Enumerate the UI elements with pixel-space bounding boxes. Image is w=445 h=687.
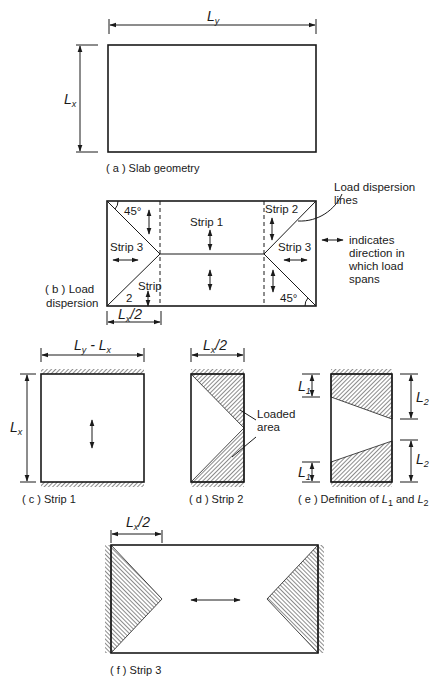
loaded-triangle-left <box>111 545 162 653</box>
caption-e: ( e ) Definition of L1 and L2 <box>298 493 429 508</box>
support-hatch-left <box>105 545 111 653</box>
legend-text-line4: spans <box>349 273 380 285</box>
dimension-label-l2-top: L2 <box>416 389 429 407</box>
callout-loaded-line1: Loaded <box>257 408 295 420</box>
angle-arc-top-left <box>115 201 118 209</box>
legend-text-line3: which load <box>348 260 403 272</box>
loaded-area-top <box>191 374 244 428</box>
loaded-trapezoid-top <box>331 374 392 419</box>
dimension-label-lx-half: Lx/2 <box>118 306 142 324</box>
legend-text-line2: direction in <box>349 247 405 259</box>
dispersion-lines-right <box>264 201 316 306</box>
label-strip2-left-line1: Strip <box>138 280 162 292</box>
caption-d: ( d ) Strip 2 <box>189 493 243 505</box>
angle-label-bottom-right: 45° <box>280 292 297 304</box>
panel-c-strip1: Ly - Lx Lx ( c ) Strip 1 <box>10 337 144 505</box>
dimension-label-l2-bottom: L2 <box>416 451 429 469</box>
caption-b-line2: dispersion <box>46 297 98 309</box>
panel-b-load-dispersion: 45° 45° Strip 1 Strip 2 Strip 3 Strip 3 … <box>45 181 415 325</box>
dimension-label-ly: Ly <box>207 8 220 26</box>
panel-f-strip3: Lx/2 ( f ) Strip 3 <box>105 514 324 676</box>
label-strip1: Strip 1 <box>190 216 223 228</box>
callout-load-dispersion-line1: Load dispersion <box>334 181 415 193</box>
slab-rectangle <box>108 45 316 152</box>
caption-c: ( c ) Strip 1 <box>22 493 76 505</box>
caption-f: ( f ) Strip 3 <box>110 664 161 676</box>
label-strip2-right: Strip 2 <box>265 203 298 215</box>
dimension-label-lx: Lx <box>10 419 23 437</box>
label-strip2-left-line2: 2 <box>126 292 132 304</box>
loaded-triangle-right <box>267 545 318 653</box>
legend-text-line1: indicates <box>349 234 395 246</box>
panel-d-strip2: Lx/2 Loaded area ( d ) Strip 2 <box>189 337 295 505</box>
dimension-label-lx-half: Lx/2 <box>203 337 227 355</box>
loaded-trapezoid-bottom <box>331 441 392 482</box>
label-strip3-left: Strip 3 <box>110 241 143 253</box>
dimension-label-lx-half: Lx/2 <box>126 514 150 532</box>
panel-a-slab-geometry: Ly Lx ( a ) Slab geometry <box>64 8 316 174</box>
support-hatch-right <box>318 545 324 653</box>
loaded-area-bottom <box>191 428 244 482</box>
dimension-label-l1-bottom: L1 <box>298 464 311 482</box>
caption-a: ( a ) Slab geometry <box>106 162 200 174</box>
panel-e-definition-l1-l2: L1 L1 L2 L2 ( e ) Definition of L1 and L… <box>298 369 429 508</box>
dimension-label-lx: Lx <box>64 91 77 109</box>
label-strip3-right: Strip 3 <box>278 241 311 253</box>
angle-arc-bottom-right <box>305 298 308 306</box>
callout-load-dispersion-line2: lines <box>334 194 358 206</box>
caption-b-line1: ( b ) Load <box>45 283 94 295</box>
slab-load-dispersion-figure: Ly Lx ( a ) Slab geometry 45° 45° Strip … <box>0 0 445 687</box>
callout-loaded-line2: area <box>257 421 281 433</box>
angle-label-top-left: 45° <box>124 205 141 217</box>
dimension-label-l1-top: L1 <box>298 378 311 396</box>
dimension-label-ly-minus-lx: Ly - Lx <box>74 337 112 355</box>
